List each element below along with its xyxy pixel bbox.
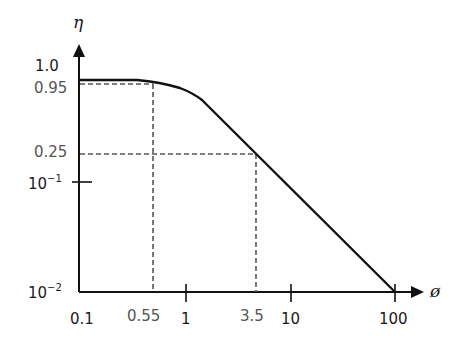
y-axis-label: η	[73, 14, 83, 31]
x-label-0-55: 0.55	[127, 309, 160, 324]
x-label-0-1: 0.1	[70, 312, 94, 327]
x-label-3-5: 3.5	[240, 309, 264, 324]
efficiency-chart	[0, 0, 465, 348]
y-label-0-95: 0.95	[34, 81, 67, 96]
y-label-1e-1-exponent: −1	[47, 173, 62, 184]
x-label-10: 10	[281, 312, 300, 327]
x-axis-arrow-icon	[411, 286, 424, 298]
x-label-100: 100	[379, 312, 408, 327]
y-label-1e-2-base: 10	[28, 284, 47, 302]
y-label-1e-1-base: 10	[28, 175, 47, 193]
x-axis-label: ø	[430, 283, 440, 300]
efficiency-curve	[79, 80, 395, 292]
y-label-1e-1: 10−1	[28, 174, 62, 192]
y-label-1e-2-exponent: −2	[47, 282, 62, 293]
y-label-1-0: 1.0	[35, 59, 59, 74]
y-label-0-25: 0.25	[34, 145, 67, 160]
x-label-1: 1	[181, 312, 191, 327]
y-axis-arrow-icon	[73, 44, 85, 57]
y-label-1e-2: 10−2	[28, 283, 62, 301]
